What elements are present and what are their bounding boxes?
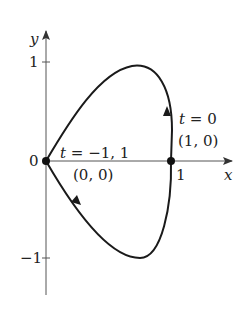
point-coord-label: (1, 0) [178, 132, 218, 150]
y-tick-label-1: 1 [29, 53, 39, 71]
origin-t-label: t = −1, 1 [60, 144, 129, 162]
x-axis-label: x [224, 166, 233, 184]
origin-label: 0 [29, 152, 39, 170]
y-axis-label: y [29, 30, 39, 48]
point-1-0 [167, 157, 175, 165]
point-t-label: t = 0 [179, 110, 217, 128]
y-tick-label-neg1: −1 [20, 249, 42, 267]
parametric-curve-diagram: y x 1 −1 0 1 t = −1, 1 (0, 0) t = 0 (1, … [0, 0, 249, 313]
origin-coord-label: (0, 0) [73, 166, 113, 184]
point-origin [42, 157, 50, 165]
x-tick-label-1: 1 [176, 166, 186, 184]
